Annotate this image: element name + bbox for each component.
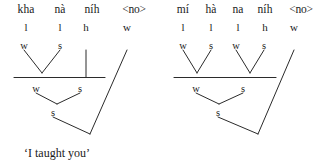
diagram-right: mí hà na níh <no> l l l h w w s w s w s …	[166, 0, 332, 168]
diagram-left: kha nà níh <no> l l h w w s w s s ‘I tau…	[0, 0, 166, 168]
word-label: nà	[54, 4, 65, 16]
diagram-right-lines	[166, 0, 332, 168]
word-label: <no>	[122, 4, 146, 16]
word-label: níh	[85, 4, 100, 16]
tier3-label: s	[58, 41, 62, 52]
tier2-label: l	[58, 22, 61, 33]
tier4-label: w	[192, 84, 200, 95]
tier2-label: h	[83, 22, 89, 33]
tier3-label: s	[209, 41, 213, 52]
metrical-tree-figure: kha nà níh <no> l l h w w s w s s ‘I tau…	[0, 0, 332, 168]
word-label: níh	[258, 4, 273, 16]
word-label: <no>	[289, 4, 313, 16]
tier5-label: s	[51, 108, 55, 119]
tier3-label: w	[20, 41, 28, 52]
tier2-label: h	[262, 22, 268, 33]
word-label: mí	[177, 4, 189, 16]
tier2-label: l	[209, 22, 212, 33]
tier2-label: l	[236, 22, 239, 33]
tier2-label: w	[123, 22, 131, 33]
word-label: hà	[205, 4, 216, 16]
word-label: na	[232, 4, 243, 16]
gloss-left: ‘I taught you’	[24, 146, 90, 161]
tier2-label: w	[290, 22, 298, 33]
word-label: kha	[18, 4, 35, 16]
tier2-label: l	[181, 22, 184, 33]
tier3-label: s	[262, 41, 266, 52]
tier3-label: w	[179, 41, 187, 52]
tier5-label: s	[216, 108, 220, 119]
tier3-label: w	[232, 41, 240, 52]
tier2-label: l	[24, 22, 27, 33]
tier4-label: s	[241, 84, 245, 95]
tier4-label: w	[32, 84, 40, 95]
tier4-label: s	[78, 84, 82, 95]
